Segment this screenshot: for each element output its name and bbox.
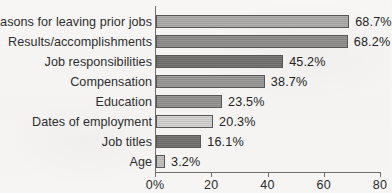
bar-value-label: 45.2%	[289, 52, 325, 72]
bar	[156, 15, 349, 28]
category-label: Compensation	[70, 72, 152, 92]
bar-row: Job titles16.1%	[0, 132, 390, 152]
category-label: Results/accomplishments	[8, 32, 152, 52]
bar-value-label: 16.1%	[207, 132, 243, 152]
x-axis-tick-label: 40	[260, 178, 274, 192]
category-label: Age	[129, 152, 152, 172]
bar	[156, 35, 348, 48]
x-axis-tick	[380, 172, 381, 177]
bar-row: Results/accomplishments68.2%	[0, 32, 390, 52]
bar	[156, 75, 265, 88]
category-label: Job responsibilities	[45, 52, 152, 72]
x-axis-tick-label: 20	[204, 178, 218, 192]
bar-value-label: 23.5%	[228, 92, 264, 112]
bar	[156, 115, 213, 128]
bar	[156, 155, 165, 168]
bar-row: Reasons for leaving prior jobs68.7%	[0, 12, 390, 32]
bar-value-label: 68.2%	[354, 32, 390, 52]
x-axis-tick-label: 80	[373, 178, 387, 192]
bar	[156, 135, 201, 148]
bar-value-label: 3.2%	[171, 152, 200, 172]
bar	[156, 55, 283, 68]
x-axis-tick-label: 60	[317, 178, 331, 192]
bar-value-label: 68.7%	[355, 12, 391, 32]
x-axis-tick	[155, 172, 156, 177]
bar-row: Dates of employment20.3%	[0, 112, 390, 132]
bar-row: Education23.5%	[0, 92, 390, 112]
bar-row: Compensation38.7%	[0, 72, 390, 92]
x-axis-tick-label: 0%	[146, 178, 164, 192]
category-label: Dates of employment	[32, 112, 152, 132]
bar	[156, 95, 222, 108]
bar-row: Age3.2%	[0, 152, 390, 172]
bar-value-label: 38.7%	[271, 72, 307, 92]
category-label: Reasons for leaving prior jobs	[0, 12, 152, 32]
x-axis-tick	[268, 172, 269, 177]
category-label: Job titles	[102, 132, 152, 152]
bar-row: Job responsibilities45.2%	[0, 52, 390, 72]
x-axis-tick	[324, 172, 325, 177]
x-axis-tick	[211, 172, 212, 177]
bar-value-label: 20.3%	[219, 112, 255, 132]
category-label: Education	[96, 92, 152, 112]
